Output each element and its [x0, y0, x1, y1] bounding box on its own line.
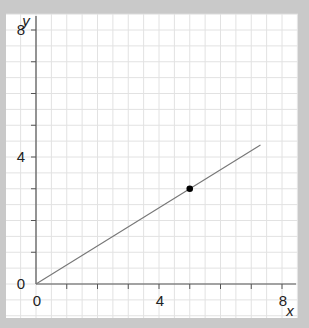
x-tick-label: 0 [33, 292, 41, 309]
y-tick-label: 4 [17, 148, 25, 165]
chart-panel [6, 14, 298, 318]
y-tick-label: 0 [17, 275, 25, 292]
chart: y x 048048 [0, 0, 309, 328]
y-tick-label: 8 [17, 21, 25, 38]
x-tick-label: 8 [279, 292, 287, 309]
line-graph: y x 048048 [0, 0, 309, 328]
x-tick-label: 4 [156, 292, 164, 309]
data-point [186, 185, 193, 192]
